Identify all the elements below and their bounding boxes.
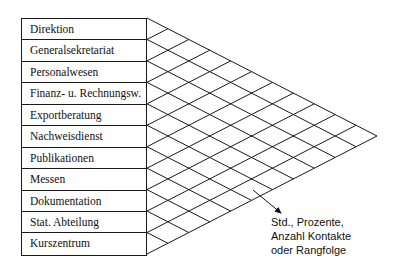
department-table: Direktion Generalsekretariat Personalwes… <box>21 18 147 256</box>
department-row: Publikationen <box>22 148 146 169</box>
grid-line-down <box>147 61 335 158</box>
grid-line-up <box>147 115 335 212</box>
annotation-line: Std., Prozente, <box>271 215 351 229</box>
grid-line-down <box>147 147 252 201</box>
grid-top-edge <box>147 18 377 136</box>
department-row: Finanz- u. Rechnungsw. <box>22 83 146 104</box>
grid-line-up <box>147 72 252 126</box>
department-row: Direktion <box>22 19 146 40</box>
annotation-line: Anzahl Kontakte <box>271 229 351 243</box>
department-row: Exportberatung <box>22 105 146 126</box>
department-row: Kurszentrum <box>22 233 146 254</box>
grid-line-up <box>147 29 168 40</box>
grid-line-up <box>147 93 293 168</box>
department-row: Personalwesen <box>22 62 146 83</box>
department-row: Messen <box>22 169 146 190</box>
department-row: Generalsekretariat <box>22 40 146 61</box>
grid-line-down <box>147 233 168 244</box>
department-row: Nachweisdienst <box>22 126 146 147</box>
grid-line-down <box>147 104 293 179</box>
annotation-line: oder Rangfolge <box>271 243 351 257</box>
department-row: Dokumentation <box>22 191 146 212</box>
annotation-arrow-icon <box>253 190 281 213</box>
department-row: Stat. Abteilung <box>22 212 146 233</box>
matrix-diagram: Direktion Generalsekretariat Personalwes… <box>0 0 398 272</box>
cell-value-annotation: Std., Prozente, Anzahl Kontakte oder Ran… <box>271 215 351 257</box>
